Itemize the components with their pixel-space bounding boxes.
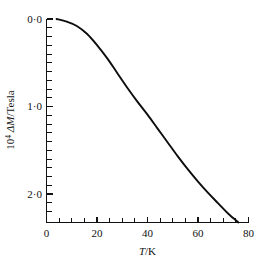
x-tick-label: 60 [193, 227, 205, 239]
data-curve-delta-m [57, 19, 239, 223]
y-axis-title-quantity: ΔM [4, 116, 16, 133]
x-axis-ticks [47, 217, 249, 223]
y-axis-title-coefficient: 10 [4, 138, 16, 150]
y-tick-labels: 0·0 1·0 2·0 [27, 13, 42, 200]
x-axis-title: T/K [139, 245, 156, 257]
x-tick-labels: 0 20 40 60 80 [44, 227, 255, 239]
x-tick-label: 0 [44, 227, 50, 239]
x-tick-label: 40 [142, 227, 154, 239]
chart-plot: 0 20 40 60 80 0·0 1·0 2·0 T/K 104 ΔM/Tes… [0, 0, 274, 269]
x-tick-label: 80 [243, 227, 255, 239]
axes-frame [47, 19, 249, 223]
y-tick-label: 0·0 [27, 13, 42, 25]
y-axis-ticks [47, 19, 53, 212]
y-tick-label: 1·0 [27, 100, 42, 112]
x-tick-label: 20 [92, 227, 104, 239]
y-axis-title-unit: Tesla [4, 90, 16, 113]
figure-container: 0 20 40 60 80 0·0 1·0 2·0 T/K 104 ΔM/Tes… [0, 0, 274, 269]
y-axis-title: 104 ΔM/Tesla [4, 90, 17, 149]
y-tick-label: 2·0 [27, 188, 42, 200]
x-axis-title-unit: K [148, 245, 156, 257]
